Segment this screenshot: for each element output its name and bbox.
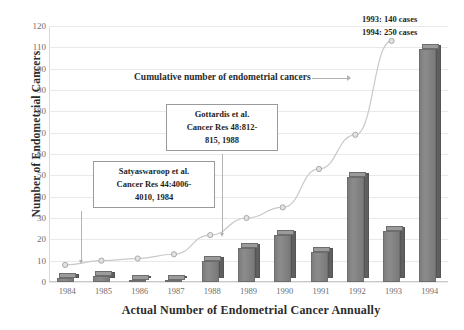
x-axis-title: Actual Number of Endometrial Cancer Annu…: [45, 303, 457, 318]
plot-area: 0102030405060708090100110120 19841985198…: [49, 26, 448, 282]
line-marker: [280, 205, 285, 210]
x-axis-tick-label: 1985: [85, 286, 121, 296]
y-axis-tick-label: 10: [6, 256, 46, 266]
y-axis-tick-label: 60: [6, 149, 46, 159]
gottardis-line-3: 815, 1988: [171, 134, 273, 147]
line-marker: [208, 232, 213, 237]
y-axis-tick-label: 70: [6, 128, 46, 138]
gottardis-callout: Gottardis et al. Cancer Res 48:812- 815,…: [166, 104, 278, 151]
x-axis-tick-label: 1984: [49, 286, 85, 296]
line-marker: [389, 38, 394, 43]
x-axis-tick-label: 1992: [339, 286, 375, 296]
gottardis-line-2: Cancer Res 48:812-: [171, 121, 273, 134]
note-1993: 1993: 140 cases: [362, 14, 417, 24]
x-axis-tick-label: 1989: [231, 286, 267, 296]
gottardis-leader-arrow: [220, 233, 224, 237]
x-axis-tick-label: 1994: [412, 286, 448, 296]
y-axis-tick-label: 0: [6, 277, 46, 287]
line-marker: [244, 215, 249, 220]
line-marker: [135, 256, 140, 261]
line-marker: [99, 258, 104, 263]
note-1994: 1994: 250 cases: [362, 27, 417, 37]
x-axis-tick-label: 1986: [122, 286, 158, 296]
y-axis-tick-label: 110: [6, 42, 46, 52]
satyaswaroop-callout: Satyaswaroop et al. Cancer Res 44:4006- …: [93, 161, 215, 208]
y-axis-tick-label: 40: [6, 192, 46, 202]
y-axis-tick-label: 30: [6, 213, 46, 223]
x-axis-tick-label: 1988: [194, 286, 230, 296]
chart-container: Number of Endometrial Cancers Actual Num…: [0, 0, 464, 330]
x-axis-tick-label: 1993: [376, 286, 412, 296]
cumulative-line-series: [49, 26, 448, 282]
series-label-leader: [312, 78, 348, 79]
y-axis-tick-label: 90: [6, 85, 46, 95]
gottardis-line-1: Gottardis et al.: [171, 108, 273, 121]
satyaswaroop-leader-arrow: [79, 260, 83, 264]
y-axis-tick-label: 80: [6, 106, 46, 116]
y-axis-tick-label: 100: [6, 64, 46, 74]
gridline: [49, 282, 448, 283]
line-marker: [63, 262, 68, 267]
x-axis-tick-label: 1987: [158, 286, 194, 296]
x-axis-tick-label: 1991: [303, 286, 339, 296]
y-axis-tick-label: 20: [6, 234, 46, 244]
satyaswaroop-line-2: Cancer Res 44:4006-: [98, 178, 210, 191]
satyaswaroop-leader-line: [81, 211, 82, 262]
satyaswaroop-line-1: Satyaswaroop et al.: [98, 165, 210, 178]
series-label-cumulative: Cumulative number of endometrial cancers: [134, 72, 311, 82]
line-marker: [353, 132, 358, 137]
x-axis-tick-label: 1990: [267, 286, 303, 296]
y-axis-tick-label: 120: [6, 21, 46, 31]
y-axis-tick-label: 50: [6, 170, 46, 180]
satyaswaroop-line-3: 4010, 1984: [98, 191, 210, 204]
line-marker: [316, 166, 321, 171]
gottardis-leader-line: [222, 154, 223, 235]
line-marker: [171, 252, 176, 257]
series-label-arrow: [347, 75, 351, 81]
